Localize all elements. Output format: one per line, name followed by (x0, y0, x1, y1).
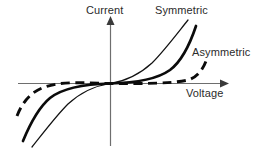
asymmetric-curve-label: Asymmetric (192, 46, 250, 58)
current-axis-label: Current (86, 4, 123, 16)
current-axis-arrowhead (107, 16, 115, 25)
iv-curve-plot (0, 0, 260, 152)
curve-asymmetric (17, 58, 207, 116)
symmetric-curve-label: Symmetric (155, 4, 208, 16)
iv-characteristic-figure: Current Voltage Symmetric Asymmetric (0, 0, 260, 152)
voltage-axis-label: Voltage (186, 87, 223, 99)
